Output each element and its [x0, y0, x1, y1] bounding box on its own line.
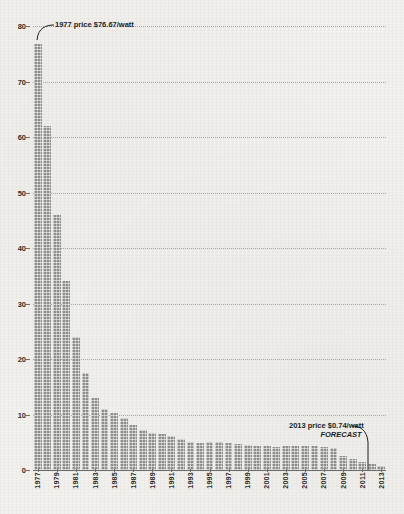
x-tick-mark-1981: [76, 469, 77, 472]
x-tick-label-2007: 2007: [320, 472, 327, 489]
x-tick-mark-2003: [286, 469, 287, 472]
bar-1978: [43, 126, 51, 470]
x-tick-label-1983: 1983: [92, 472, 99, 489]
x-tick-mark-2013: [381, 469, 382, 472]
x-axis-labels: 1977197919811983198519871989199119931995…: [33, 472, 386, 512]
y-tick-mark-0: [26, 470, 30, 471]
annotation-last-price-label: 2013 price $0.74/watt: [289, 421, 364, 430]
bar-2010: [349, 459, 357, 470]
y-tick-mark-40: [26, 248, 30, 249]
bar-2008: [330, 448, 338, 470]
x-tick-label-1995: 1995: [206, 472, 213, 489]
x-tick-mark-1991: [171, 469, 172, 472]
y-tick-label-20: 20: [18, 355, 26, 364]
x-tick-label-1985: 1985: [111, 472, 118, 489]
y-tick-mark-20: [26, 359, 30, 360]
x-tick-mark-2011: [362, 469, 363, 472]
plot-area: [33, 26, 386, 470]
bar-2007: [320, 447, 328, 470]
bar-2004: [291, 446, 299, 470]
y-tick-label-10: 10: [18, 410, 26, 419]
y-tick-label-40: 40: [18, 244, 26, 253]
bar-1996: [215, 442, 223, 470]
x-tick-mark-2009: [343, 469, 344, 472]
bar-1990: [158, 434, 166, 470]
bar-1997: [225, 443, 233, 470]
x-tick-mark-1979: [57, 469, 58, 472]
bar-2012: [368, 464, 376, 470]
y-tick-label-60: 60: [18, 133, 26, 142]
y-tick-mark-70: [26, 82, 30, 83]
x-tick-label-2009: 2009: [340, 472, 347, 489]
solar-price-bar-chart: 01020304050607080 1977197919811983198519…: [0, 0, 404, 514]
y-axis-labels: 01020304050607080: [0, 26, 30, 470]
x-tick-label-1993: 1993: [187, 472, 194, 489]
x-tick-mark-1995: [210, 469, 211, 472]
bar-2003: [282, 446, 290, 470]
bar-2001: [263, 446, 271, 470]
y-tick-label-50: 50: [18, 188, 26, 197]
bar-1987: [129, 425, 137, 471]
bar-1995: [206, 442, 214, 470]
y-tick-label-70: 70: [18, 77, 26, 86]
y-tick-label-80: 80: [18, 22, 26, 31]
x-tick-mark-2005: [305, 469, 306, 472]
y-tick-mark-50: [26, 193, 30, 194]
bar-1983: [91, 398, 99, 470]
x-tick-mark-1999: [248, 469, 249, 472]
bar-1985: [110, 413, 118, 470]
x-tick-mark-1993: [190, 469, 191, 472]
bar-series: [33, 26, 386, 470]
bar-1988: [139, 430, 147, 471]
bar-1981: [72, 337, 80, 470]
x-tick-label-1979: 1979: [53, 472, 60, 489]
y-tick-mark-30: [26, 304, 30, 305]
bar-1993: [187, 442, 195, 470]
x-tick-label-1991: 1991: [168, 472, 175, 489]
bar-1977: [34, 44, 42, 470]
x-tick-mark-1997: [229, 469, 230, 472]
annotation-last-price: 2013 price $0.74/watt FORECAST: [289, 421, 364, 439]
bar-1991: [167, 436, 175, 470]
x-tick-label-1989: 1989: [149, 472, 156, 489]
bar-2005: [301, 446, 309, 470]
bar-1979: [53, 215, 61, 470]
x-tick-mark-1977: [38, 469, 39, 472]
bar-1994: [196, 443, 204, 470]
y-tick-mark-10: [26, 415, 30, 416]
bar-1992: [177, 439, 185, 470]
bar-2000: [253, 446, 261, 470]
x-tick-label-1977: 1977: [34, 472, 41, 489]
x-tick-mark-1989: [152, 469, 153, 472]
bar-1980: [62, 281, 70, 470]
bar-1998: [234, 444, 242, 470]
x-tick-label-2001: 2001: [263, 472, 270, 489]
bar-1999: [244, 445, 252, 470]
x-tick-label-2013: 2013: [378, 472, 385, 489]
x-tick-mark-2001: [267, 469, 268, 472]
bar-1986: [120, 418, 128, 470]
x-tick-label-1997: 1997: [225, 472, 232, 489]
annotation-forecast-label: FORECAST: [289, 430, 364, 439]
bar-2006: [311, 446, 319, 470]
x-tick-label-1987: 1987: [130, 472, 137, 489]
y-tick-mark-60: [26, 137, 30, 138]
x-tick-label-2011: 2011: [359, 472, 366, 488]
bar-1984: [101, 409, 109, 470]
y-tick-label-30: 30: [18, 299, 26, 308]
y-tick-mark-80: [26, 26, 30, 27]
x-tick-mark-2007: [324, 469, 325, 472]
bar-2002: [272, 447, 280, 470]
x-tick-mark-1985: [114, 469, 115, 472]
bar-1989: [148, 433, 156, 470]
annotation-first-price-label: 1977 price $76.67/watt: [55, 20, 134, 29]
x-tick-label-2003: 2003: [282, 472, 289, 489]
x-tick-mark-1987: [133, 469, 134, 472]
x-tick-label-1981: 1981: [72, 472, 79, 489]
annotation-first-price: 1977 price $76.67/watt: [55, 20, 134, 29]
bar-1982: [82, 373, 90, 470]
x-tick-label-2005: 2005: [301, 472, 308, 489]
x-tick-label-1999: 1999: [244, 472, 251, 489]
x-tick-mark-1983: [95, 469, 96, 472]
bar-2009: [339, 456, 347, 470]
